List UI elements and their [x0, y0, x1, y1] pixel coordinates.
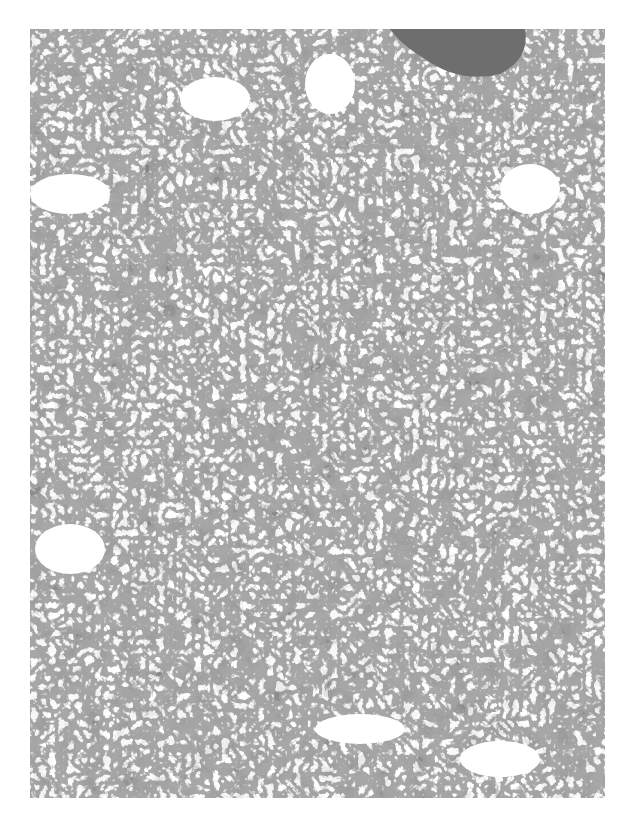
- histology-micrograph: [30, 29, 605, 798]
- tissue-texture: [30, 29, 605, 798]
